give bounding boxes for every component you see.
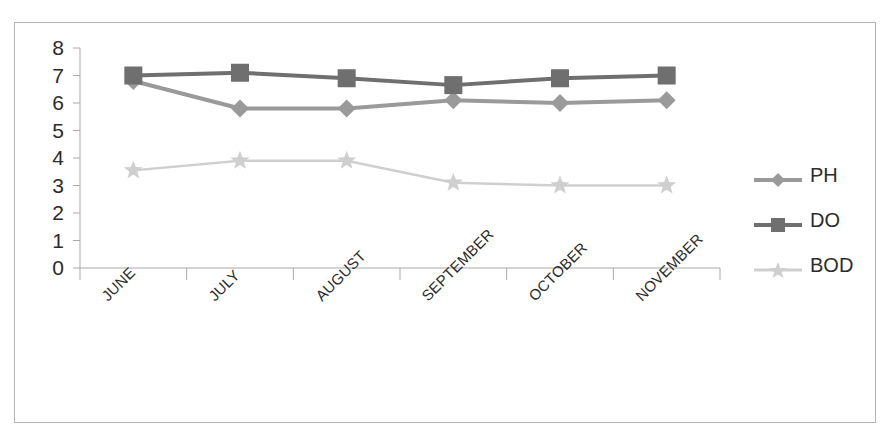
- chart-series-layer: [124, 64, 676, 194]
- legend-item-ph[interactable]: PH: [752, 160, 872, 205]
- y-tick-label: 3: [38, 175, 64, 196]
- y-tick-label: 6: [38, 92, 64, 113]
- y-tick-label: 5: [38, 120, 64, 141]
- y-tick-label: 8: [38, 37, 64, 58]
- y-tick-label: 0: [38, 257, 64, 278]
- legend-label-bod: BOD: [810, 255, 853, 275]
- legend-label-ph: PH: [810, 165, 838, 185]
- legend-marker-ph: [752, 170, 804, 190]
- legend-marker-do: [752, 215, 804, 235]
- y-tick-label: 7: [38, 65, 64, 86]
- legend-label-do: DO: [810, 210, 840, 230]
- chart-legend: PH DO BOD: [752, 160, 872, 295]
- chart-page: 876543210 JUNEJULYAUGUSTSEPTEMBEROCTOBER…: [0, 0, 892, 438]
- legend-marker-bod: [752, 260, 804, 280]
- series-bod: [124, 151, 676, 194]
- legend-item-do[interactable]: DO: [752, 205, 872, 250]
- y-tick-label: 1: [38, 230, 64, 251]
- series-do: [124, 64, 675, 94]
- y-tick-label: 2: [38, 202, 64, 223]
- legend-item-bod[interactable]: BOD: [752, 250, 872, 295]
- y-tick-label: 4: [38, 147, 64, 168]
